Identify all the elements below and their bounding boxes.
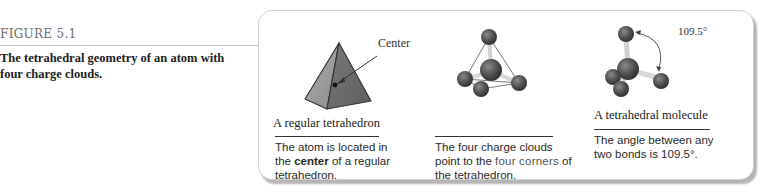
panel-description: The four charge clouds point to the four… [435,140,575,182]
divider [594,129,710,130]
panel-regular-tetrahedron: Center A regular tetrahedron The atom is… [259,11,419,179]
figure-caption: The tetrahedral geometry of an atom with… [0,50,230,82]
charge-cloud-model-illustration [453,27,537,97]
angle-label: 109.5° [678,25,707,37]
divider [275,136,379,137]
panel-description: The angle between any two bonds is 109.5… [594,133,734,161]
figure-label: FIGURE 5.1 [0,27,76,41]
panel-description: The atom is located in the center of a r… [275,140,393,182]
panel-title: A regular tetrahedron [273,116,380,131]
panel-tetrahedral-molecule: 109.5° A tetrahedral molecule The angle … [577,11,753,179]
tetrahedron-illustration [299,41,429,113]
figure-rule [0,45,258,46]
panel-charge-clouds: The four charge clouds point to the four… [417,11,587,179]
center-callout: Center [378,36,410,51]
figure-panel: Center A regular tetrahedron The atom is… [258,10,754,180]
panel-title: A tetrahedral molecule [594,108,708,123]
divider [435,136,553,137]
